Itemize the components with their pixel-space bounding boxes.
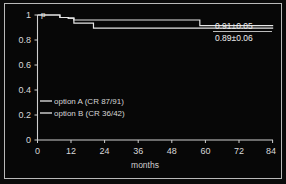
x-axis-ticks: 0 12 24 36 48 60 72 84: [35, 140, 276, 156]
y-axis-ticks: 0 0.2 0.4 0.6 0.8 1: [18, 10, 37, 145]
legend-label-option-b: option B (CR 36/42): [54, 109, 125, 118]
x-tick-label-48: 48: [167, 146, 177, 156]
annotation-option-a: 0.91±0.05: [215, 21, 253, 31]
legend: option A (CR 87/91) option B (CR 36/42): [40, 97, 125, 118]
figure-container: 0 0.2 0.4 0.6 0.8 1 p 0 12: [0, 0, 286, 184]
survival-chart: 0 0.2 0.4 0.6 0.8 1 p 0 12: [0, 0, 286, 184]
annotation-option-b: 0.89±0.06: [215, 33, 253, 43]
legend-label-option-a: option A (CR 87/91): [54, 97, 124, 106]
y-tick-label-04: 0.4: [18, 85, 31, 95]
x-tick-label-36: 36: [133, 146, 143, 156]
x-tick-label-24: 24: [100, 146, 110, 156]
x-tick-label-12: 12: [66, 146, 76, 156]
y-tick-label-1: 1: [26, 10, 31, 20]
x-tick-label-0: 0: [35, 146, 40, 156]
y-tick-label-02: 0.2: [18, 110, 31, 120]
x-tick-label-72: 72: [234, 146, 244, 156]
y-tick-label-08: 0.8: [18, 35, 31, 45]
y-tick-label-06: 0.6: [18, 60, 31, 70]
x-axis-title: months: [131, 160, 159, 170]
end-annotations: 0.91±0.05 0.89±0.06: [213, 21, 272, 43]
x-tick-label-60: 60: [200, 146, 210, 156]
x-tick-label-84: 84: [266, 146, 276, 156]
y-tick-label-0: 0: [26, 135, 31, 145]
